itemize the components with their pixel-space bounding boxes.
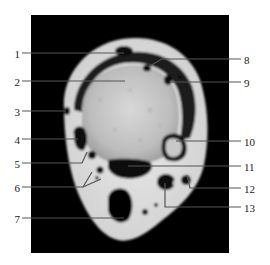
- label-13: 13: [244, 203, 264, 214]
- label-7: 7: [4, 214, 20, 225]
- tibialis-anterior-tendon: [115, 46, 133, 56]
- edl-tendon: [164, 75, 172, 85]
- label-11: 11: [244, 162, 264, 173]
- peroneus-tendon: [157, 174, 175, 190]
- label-1: 1: [4, 49, 20, 60]
- label-8: 8: [244, 55, 264, 66]
- label-9: 9: [244, 78, 264, 89]
- label-2: 2: [4, 77, 20, 88]
- label-4: 4: [4, 135, 20, 146]
- label-6: 6: [4, 183, 20, 194]
- mri-axial-ankle-image: [0, 0, 270, 265]
- label-5: 5: [4, 159, 20, 170]
- label-12: 12: [244, 184, 264, 195]
- achilles-tendon: [108, 188, 132, 222]
- label-3: 3: [4, 107, 20, 118]
- mri-figure: 12345678910111213: [0, 0, 270, 265]
- label-10: 10: [244, 137, 264, 148]
